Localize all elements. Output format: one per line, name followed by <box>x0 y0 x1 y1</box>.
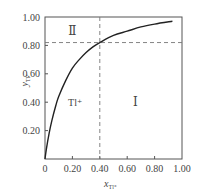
x-tick-label: 0.20 <box>64 163 82 174</box>
y-tick-label: 1.00 <box>23 12 41 23</box>
x-tick-label: 0.40 <box>91 163 109 174</box>
y-tick-label: 0.40 <box>23 97 41 108</box>
species-label: Tl⁺ <box>68 97 82 108</box>
y-axis-title: yTl⁺ <box>19 74 31 88</box>
x-tick-label: 0.60 <box>118 163 136 174</box>
x-tick-label: 0 <box>43 163 48 174</box>
x-axis-title: xTl⁺ <box>103 178 117 190</box>
x-tick-label: 0.80 <box>146 163 164 174</box>
chart: 00.200.400.600.801.000.200.400.600.801.0… <box>0 0 204 194</box>
y-tick-label: 0.80 <box>23 40 41 51</box>
region-label-I: Ⅰ <box>133 95 138 109</box>
plot-frame <box>45 17 182 159</box>
y-tick-label: 0.20 <box>23 125 41 136</box>
region-label-II: Ⅱ <box>68 24 76 38</box>
x-tick-label: 1.00 <box>173 163 191 174</box>
data-curve <box>45 21 172 159</box>
plot-area: 00.200.400.600.801.000.200.400.600.801.0… <box>19 12 191 191</box>
